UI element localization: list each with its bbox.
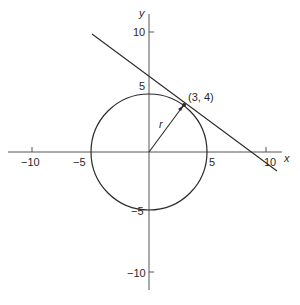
radius-line: [149, 106, 183, 152]
x-tick-label: −10: [21, 156, 40, 168]
y-tick-label: −5: [131, 205, 144, 217]
y-tick-label: −10: [127, 267, 146, 279]
x-tick-label: 10: [264, 156, 276, 168]
y-axis-label: y: [138, 7, 146, 19]
tangent-point: [182, 103, 186, 107]
x-tick-label: −5: [73, 156, 86, 168]
diagram-figure: y x −10 −5 5 10 10 5 −5 −10 (3, 4) r: [0, 0, 300, 305]
radius-label: r: [159, 118, 164, 130]
x-tick-label: 5: [209, 156, 215, 168]
y-tick-label: 10: [133, 26, 145, 38]
y-tick-label: 5: [139, 80, 145, 92]
point-label: (3, 4): [188, 91, 214, 103]
x-axis-label: x: [283, 152, 290, 164]
